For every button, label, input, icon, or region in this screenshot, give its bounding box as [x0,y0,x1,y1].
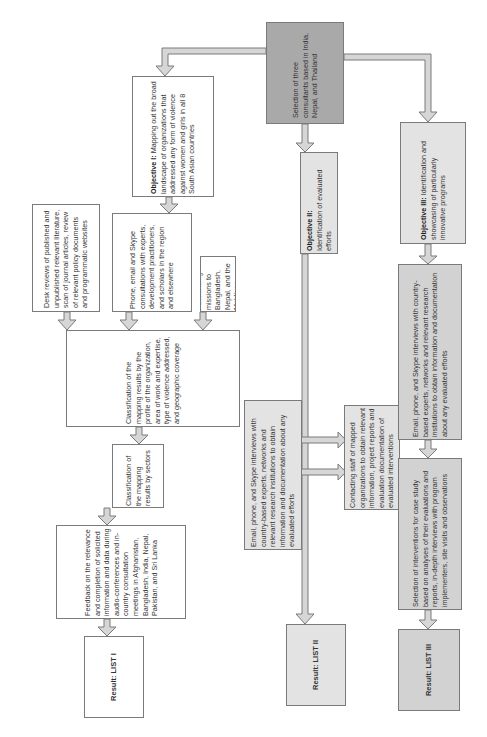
branch3-interviews-text: Email, phone, and Skype interviews with … [411,267,449,437]
fact-finding-box: Fact-finding missions to Bangladesh, Nep… [200,256,236,312]
result-list-1-label: Result: LIST I [109,653,119,701]
result-list-2-box: Result: LIST II [286,624,346,706]
start-text: Selection of three consultants based in … [291,28,320,118]
result-list-2-label: Result: LIST II [311,640,321,690]
phone-consultation-text: Phone, email and Skype consultations wit… [128,217,176,309]
arrow-start-to-obj2 [296,124,314,152]
desk-review-text: Desk reviews of published and unpublishe… [42,208,90,308]
objective-1-box: Objective I: Mapping out the broad lands… [132,76,214,197]
fact-finding-text: Fact-finding missions to Bangladesh, Nep… [200,258,236,310]
result-list-1-box: Result: LIST I [84,636,144,718]
classification-profile-box: Classification of the mapping results by… [66,330,240,427]
branch2-interviews-text: Email, phone, and Skype interviews with … [249,403,297,547]
contact-staff-box: Contacting staff of mapped organizations… [344,405,400,510]
feedback-text: Feedback on the relevance and completion… [83,528,160,616]
objective-2-box: Objective II: Identification of evaluate… [300,152,338,254]
case-study-selection-text: Selection of interventions for case stud… [411,461,449,607]
result-list-3-box: Result: LIST III [398,629,460,711]
feedback-box: Feedback on the relevance and completion… [56,525,186,619]
arrow-start-to-obj1 [156,48,266,76]
start-box: Selection of three consultants based in … [266,22,344,124]
classification-sectors-text: Classification of the mapping results by… [124,446,153,506]
result-list-3-label: Result: LIST III [424,644,434,696]
branch3-interviews-box: Email, phone, and Skype interviews with … [398,264,462,440]
branch2-interviews-box: Email, phone, and Skype interviews with … [244,400,302,550]
objective-3-title: Objective III: [419,197,428,240]
desk-review-box: Desk reviews of published and unpublishe… [32,204,100,312]
phone-consultation-box: Phone, email and Skype consultations wit… [112,213,192,312]
objective-2-title: Objective II: [305,210,314,251]
contact-staff-text: Contacting staff of mapped organizations… [348,408,396,508]
case-study-selection-box: Selection of interventions for case stud… [398,458,462,610]
objective-3-box: Objective III: Identification and showca… [400,122,466,244]
classification-sectors-box: Classification of the mapping results by… [112,444,164,508]
objective-1-title: Objective I: [149,155,158,194]
arrow-start-to-obj3 [344,54,437,122]
classification-profile-text: Classification of the mapping results by… [124,334,182,424]
objective-2-text: Identification of evaluated efforts [314,169,333,251]
